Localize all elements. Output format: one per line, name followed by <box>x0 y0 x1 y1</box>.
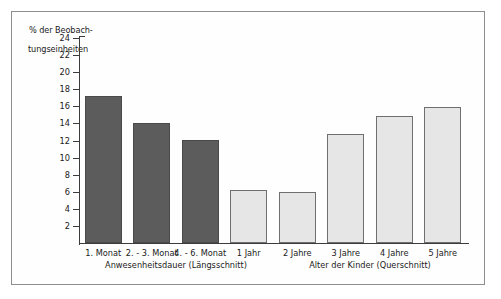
y-axis-tick-label: 12 <box>30 137 70 145</box>
y-axis-tick-mark <box>73 158 79 159</box>
y-axis-tick-mark <box>73 38 79 39</box>
y-axis-tick-label: 18 <box>30 85 70 93</box>
x-axis-label-8: 5 Jahre <box>413 249 474 258</box>
y-axis-tick-mark <box>73 209 79 210</box>
y-axis-tick-label: 4 <box>30 205 70 213</box>
y-axis-title: % der Beobach- tungseinheiten <box>19 16 93 74</box>
bar-3 <box>182 140 219 243</box>
y-axis-top-cap <box>79 36 85 37</box>
y-axis-tick-label: 8 <box>30 171 70 179</box>
y-axis-line <box>79 36 80 245</box>
y-axis-tick-label: 16 <box>30 102 70 110</box>
y-axis-tick-label: 6 <box>30 188 70 196</box>
y-axis-tick-mark <box>73 192 79 193</box>
bar-4 <box>230 190 267 243</box>
y-axis-tick-label: 10 <box>30 154 70 162</box>
y-axis-tick-mark <box>73 141 79 142</box>
y-axis-tick-label: 22 <box>30 51 70 59</box>
y-axis-tick-label: 24 <box>30 34 70 42</box>
bar-2 <box>133 123 170 243</box>
bar-6 <box>327 134 364 243</box>
y-axis-tick-mark <box>73 226 79 227</box>
y-axis-tick-mark <box>73 123 79 124</box>
x-axis-group-label-2: Alter der Kinder (Querschnitt) <box>260 261 480 270</box>
x-axis-line <box>79 243 469 244</box>
y-axis-tick-mark <box>73 175 79 176</box>
bar-5 <box>279 192 316 243</box>
y-axis-tick-mark <box>73 89 79 90</box>
bar-7 <box>376 116 413 243</box>
y-axis-tick-mark <box>73 55 79 56</box>
x-axis-group-label-1: Anwesenheitsdauer (Längsschnitt) <box>66 261 286 270</box>
bar-8 <box>424 107 461 243</box>
y-axis-tick-label: 14 <box>30 119 70 127</box>
y-axis-tick-mark <box>73 106 79 107</box>
bar-1 <box>85 96 122 243</box>
y-axis-tick-mark <box>73 72 79 73</box>
y-axis-tick-label: 20 <box>30 68 70 76</box>
y-axis-tick-label: 2 <box>30 222 70 230</box>
figure-container: % der Beobach- tungseinheiten 2468101214… <box>0 0 501 299</box>
